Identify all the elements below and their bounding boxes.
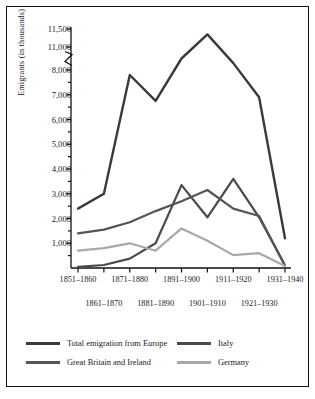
x-axis-tick-label: 1881–1890 <box>137 299 174 308</box>
legend-label: Great Britain and Ireland <box>67 358 151 367</box>
legend-row: Total emigration from Europe Italy <box>26 334 288 353</box>
legend-item-great-britain-and-ireland: Great Britain and Ireland <box>26 358 177 367</box>
legend-swatch-icon <box>26 342 60 345</box>
figure-page: 1,0002,0003,0004,0005,0006,0007,0008,000… <box>0 0 315 399</box>
x-axis-tick-label: 1891–1900 <box>163 275 200 284</box>
legend-item-total-emigration-from-europe: Total emigration from Europe <box>26 339 177 348</box>
legend-label: Germany <box>218 358 249 367</box>
legend-item-germany: Germany <box>177 358 285 367</box>
legend-swatch-icon <box>26 361 60 364</box>
x-axis-tick-label: 1871–1880 <box>111 275 148 284</box>
y-axis-title: Emigrants (in thousands) <box>17 0 26 96</box>
x-axis-tick-label: 1921–1930 <box>241 299 278 308</box>
legend-label: Total emigration from Europe <box>67 339 167 348</box>
x-axis-tick-label: 1901–1910 <box>189 299 226 308</box>
x-axis-tick-label: 1911–1920 <box>215 275 252 284</box>
legend-swatch-icon <box>177 361 211 364</box>
x-axis-tick-label: 1851–1860 <box>60 275 97 284</box>
legend-row: Great Britain and Ireland Germany <box>26 353 288 372</box>
x-axis-tick-label: 1931–1940 <box>267 275 304 284</box>
legend-label: Italy <box>218 339 233 348</box>
legend-item-italy: Italy <box>177 339 285 348</box>
x-axis-tick-label: 1861–1870 <box>85 299 122 308</box>
legend-swatch-icon <box>177 342 211 345</box>
chart-legend: Total emigration from Europe Italy Great… <box>26 334 288 372</box>
